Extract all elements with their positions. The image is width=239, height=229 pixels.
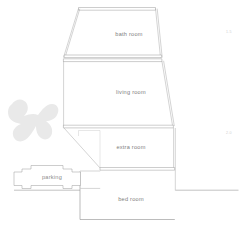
room-label-living: living room [116,89,146,95]
dimension-label-lower: 2.0 [226,131,232,135]
floor-plan-canvas: bath room living room extra room [0,0,239,229]
interior-detail-lines [79,131,101,168]
parking-label: parking [42,174,62,180]
room-label-bath: bath room [115,31,143,37]
floor-plan-drawing: bath room living room extra room [0,0,239,229]
room-bath: bath room [63,8,162,62]
room-label-extra: extra room [116,144,145,150]
room-living: living room [63,61,174,128]
dimension-label-upper: 1.5 [226,30,232,34]
room-bed: bed room [80,171,175,220]
parking-area: parking [14,166,81,189]
tree-icon [8,100,58,142]
room-label-bed: bed room [118,196,144,202]
